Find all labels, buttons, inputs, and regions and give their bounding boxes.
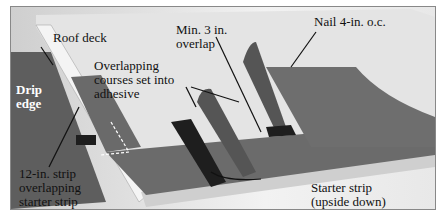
label-starter-2: (upside down) (311, 195, 386, 209)
label-overlapping-1: Overlapping (94, 59, 159, 73)
label-strip-2: overlapping (19, 181, 81, 195)
diagram-frame: Roof deck Min. 3 in. overlap Overlapping… (10, 6, 436, 210)
label-strip-1: 12-in. strip (19, 167, 76, 181)
label-min-overlap-2: overlap (176, 37, 215, 51)
label-drip-1: Drip (16, 83, 42, 97)
label-roof-deck: Roof deck (53, 31, 107, 45)
label-min-overlap-1: Min. 3 in. (176, 23, 227, 37)
label-overlapping-3: adhesive (94, 87, 139, 101)
label-drip-2: edge (16, 97, 41, 111)
label-strip-3: starter strip (19, 195, 78, 209)
label-nail: Nail 4-in. o.c. (314, 15, 386, 29)
label-overlapping-2: courses set into (94, 73, 174, 87)
label-starter-1: Starter strip (311, 181, 372, 195)
